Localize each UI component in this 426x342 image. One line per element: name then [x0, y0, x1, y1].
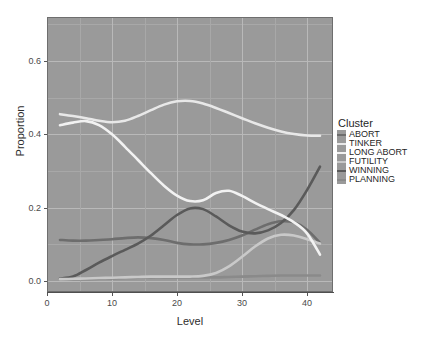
x-tick-label: 20 — [162, 299, 192, 308]
y-tick-label: 0.6 — [9, 57, 41, 66]
x-tick-mark — [177, 293, 178, 296]
y-tick-label: 0.0 — [9, 277, 41, 286]
x-tick-mark — [307, 293, 308, 296]
legend-swatch-icon — [337, 166, 346, 175]
legend-swatch-line — [337, 179, 346, 181]
x-tick-mark — [112, 293, 113, 296]
chart-title-cropped — [60, 0, 360, 3]
series-layer — [47, 17, 333, 292]
x-tick-label: 10 — [97, 299, 127, 308]
y-tick-mark — [44, 61, 47, 62]
x-tick-label: 40 — [292, 299, 322, 308]
legend-swatch-icon — [337, 175, 346, 184]
series-line — [60, 235, 320, 280]
x-axis-title: Level — [47, 315, 333, 327]
plot-panel — [47, 17, 333, 292]
chart-container: 0.00.20.40.6 010203040 Proportion Level … — [0, 0, 426, 342]
legend-swatch-icon — [337, 157, 346, 166]
legend-swatch-line — [337, 134, 346, 136]
legend: Cluster ABORTTINKERLONG ABORTFUTILITYWIN… — [337, 118, 426, 184]
x-tick-mark — [47, 293, 48, 296]
y-tick-label: 0.2 — [9, 204, 41, 213]
y-axis-title: Proportion — [14, 71, 26, 191]
series-line — [60, 101, 320, 136]
y-tick-mark — [44, 281, 47, 282]
legend-swatch-line — [337, 161, 346, 163]
series-line — [60, 167, 320, 279]
legend-title: Cluster — [337, 118, 426, 129]
x-axis-line — [47, 292, 334, 293]
legend-item-label: PLANNING — [349, 175, 395, 184]
legend-swatch-icon — [337, 130, 346, 139]
x-tick-mark — [242, 293, 243, 296]
legend-items: ABORTTINKERLONG ABORTFUTILITYWINNINGPLAN… — [337, 130, 426, 184]
y-tick-mark — [44, 134, 47, 135]
legend-swatch-line — [337, 143, 346, 145]
x-tick-label: 30 — [227, 299, 257, 308]
y-tick-mark — [44, 208, 47, 209]
legend-swatch-line — [337, 152, 346, 154]
legend-swatch-icon — [337, 148, 346, 157]
legend-swatch-icon — [337, 139, 346, 148]
legend-item-planning[interactable]: PLANNING — [337, 175, 426, 184]
x-tick-label: 0 — [32, 299, 62, 308]
legend-swatch-line — [337, 170, 346, 172]
